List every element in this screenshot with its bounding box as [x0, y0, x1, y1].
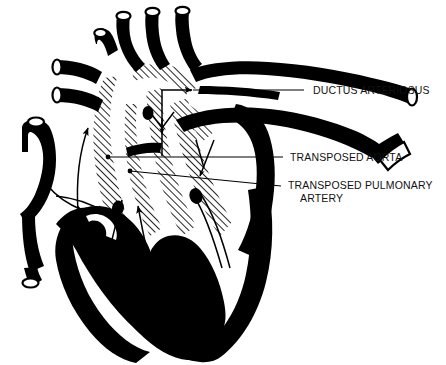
label-transposed-pulmonary-artery: TRANSPOSED PULMONARY — [288, 179, 433, 191]
heart-transposition-diagram: DUCTUS ARTERIOSUS TRANSPOSED AORTA TRANS… — [0, 0, 446, 365]
anchor-dot-pulmonary — [128, 169, 133, 174]
label-transposed-aorta: TRANSPOSED AORTA — [290, 151, 402, 163]
diagram-canvas: DUCTUS ARTERIOSUS TRANSPOSED AORTA TRANS… — [0, 0, 446, 365]
label-transposed-pulmonary-artery-line2: ARTERY — [300, 192, 343, 204]
label-ductus-arteriosus: DUCTUS ARTERIOSUS — [313, 84, 430, 96]
anchor-dot-aorta — [106, 155, 111, 160]
